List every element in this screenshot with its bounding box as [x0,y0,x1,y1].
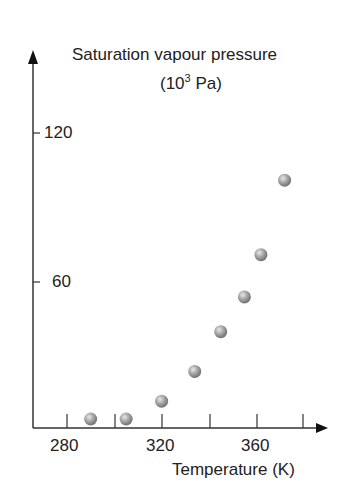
y-axis-arrow-icon [28,50,38,64]
x-tick-label-360: 360 [241,436,269,456]
y-unit-suffix: Pa) [191,74,222,93]
x-axis-arrow-icon [316,423,328,433]
data-point [120,413,133,426]
data-point [254,248,267,261]
data-point [278,174,291,187]
data-points [84,174,291,426]
data-point [188,365,201,378]
y-unit-base: (10 [160,74,185,93]
x-ticks [67,414,303,428]
y-axis-unit: (103 Pa) [160,72,222,94]
data-point [84,413,97,426]
data-point [238,290,251,303]
x-axis-title: Temperature (K) [172,460,295,480]
data-point [214,325,227,338]
y-tick-label-120: 120 [44,123,72,143]
y-axis-title: Saturation vapour pressure [72,45,277,65]
x-tick-label-320: 320 [146,436,174,456]
data-point [155,395,168,408]
y-tick-label-60: 60 [52,272,71,292]
x-tick-label-280: 280 [50,436,78,456]
